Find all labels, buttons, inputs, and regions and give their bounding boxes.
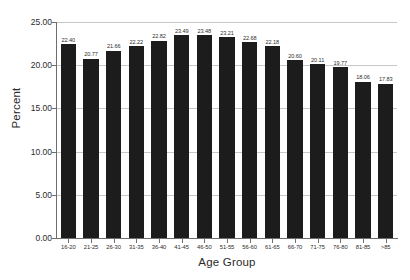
bar-value-label: 22.22 [130, 39, 144, 45]
bar-group[interactable]: 19.77 [333, 22, 348, 238]
bar-value-label: 22.68 [243, 35, 257, 41]
bar-rect[interactable] [129, 46, 144, 238]
y-tick-label: 0.00 [16, 234, 52, 243]
x-tick-label: 46-50 [197, 243, 212, 251]
bar-value-label: 18.06 [356, 74, 370, 80]
y-tick-label: 20.00 [16, 61, 52, 70]
plot-area: 22.4020.7721.6622.2222.8223.4923.4823.21… [57, 22, 397, 238]
bar-rect[interactable] [106, 51, 121, 238]
bar-value-label: 20.77 [84, 51, 98, 57]
bar-group[interactable]: 20.11 [310, 22, 325, 238]
bar-rect[interactable] [287, 60, 302, 238]
bar-rect[interactable] [333, 67, 348, 238]
bar-group[interactable]: 22.68 [242, 22, 257, 238]
x-tick-label: 76-80 [333, 243, 348, 251]
y-tick-label: 5.00 [16, 190, 52, 199]
bar-group[interactable]: 18.06 [355, 22, 370, 238]
x-tick-label: 61-65 [265, 243, 280, 251]
bar-rect[interactable] [61, 44, 76, 238]
bar-group[interactable]: 22.82 [151, 22, 166, 238]
x-tick-label: 41-45 [174, 243, 189, 251]
bar-rect[interactable] [378, 84, 393, 238]
bar-value-label: 19.77 [334, 60, 348, 66]
bars-layer: 22.4020.7721.6622.2222.8223.4923.4823.21… [57, 22, 397, 238]
x-tick-label: 71-75 [310, 243, 325, 251]
x-tick-label: 16-20 [61, 243, 76, 251]
bar-group[interactable]: 20.60 [287, 22, 302, 238]
y-tick-label: 15.00 [16, 104, 52, 113]
bar-rect[interactable] [197, 35, 212, 238]
x-tick-label: 36-40 [152, 243, 167, 251]
bar-value-label: 23.21 [220, 30, 234, 36]
x-tick-label: 51-55 [220, 243, 235, 251]
x-axis-title: Age Group [57, 256, 397, 268]
x-tick-label: 26-30 [106, 243, 121, 251]
x-tick-label: 56-60 [242, 243, 257, 251]
x-tick-label: 81-85 [356, 243, 371, 251]
bar-group[interactable]: 23.48 [197, 22, 212, 238]
bar-value-label: 22.82 [152, 33, 166, 39]
bar-value-label: 17.83 [379, 76, 393, 82]
bar-rect[interactable] [355, 82, 370, 238]
bar-rect[interactable] [151, 41, 166, 238]
bar-value-label: 20.11 [311, 57, 324, 63]
bar-group[interactable]: 22.40 [61, 22, 76, 238]
bar-group[interactable]: 23.49 [174, 22, 189, 238]
bar-value-label: 20.60 [288, 53, 302, 59]
bar-group[interactable]: 17.83 [378, 22, 393, 238]
x-tick-label: 21-25 [84, 243, 99, 251]
x-tick-label: 66-70 [288, 243, 303, 251]
bar-value-label: 22.18 [266, 39, 280, 45]
bar-rect[interactable] [219, 37, 234, 238]
x-axis-tick-labels: 16-2021-2526-3031-3536-4041-4546-5051-55… [57, 243, 397, 255]
bar-value-label: 23.49 [175, 28, 189, 34]
bar-rect[interactable] [174, 35, 189, 238]
bar-rect[interactable] [265, 46, 280, 238]
y-tick-label: 25.00 [16, 18, 52, 27]
bar-group[interactable]: 21.66 [106, 22, 121, 238]
bar-group[interactable]: 22.22 [129, 22, 144, 238]
bar-value-label: 21.66 [107, 43, 121, 49]
bar-chart-figure: Percent 25.0020.0015.0010.005.000.00 22.… [0, 0, 410, 280]
bar-group[interactable]: 22.18 [265, 22, 280, 238]
bar-rect[interactable] [83, 59, 98, 238]
bar-value-label: 23.48 [198, 28, 212, 34]
y-axis-tick-labels: 25.0020.0015.0010.005.000.00 [16, 22, 52, 238]
y-tick-label: 10.00 [16, 147, 52, 156]
bar-rect[interactable] [310, 64, 325, 238]
bar-value-label: 22.40 [62, 37, 76, 43]
bar-group[interactable]: 23.21 [219, 22, 234, 238]
bar-rect[interactable] [242, 42, 257, 238]
bar-group[interactable]: 20.77 [83, 22, 98, 238]
x-tick-label: 31-35 [129, 243, 144, 251]
x-tick-label: >85 [381, 243, 391, 251]
